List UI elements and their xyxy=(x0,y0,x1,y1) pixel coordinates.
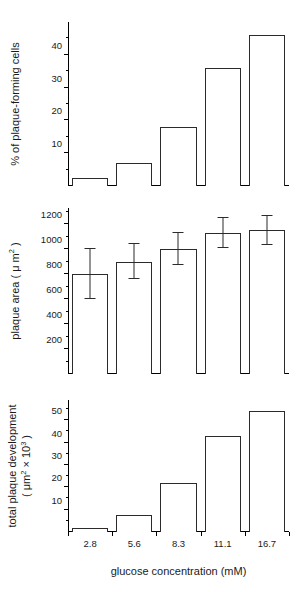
panel-percent-plaque-forming-cells: % of plaque-forming cells 10203040 xyxy=(0,14,305,194)
y-tick-label: 600 xyxy=(46,285,62,295)
y-tick-label: 1200 xyxy=(41,210,62,220)
ylabel-middle-wrap: plaque area ( μ m2 ) xyxy=(16,208,17,374)
bar-slot xyxy=(68,208,112,374)
bar-slot xyxy=(112,208,156,374)
bar-16-7-mM xyxy=(249,411,285,532)
bar-11-1-mM xyxy=(205,68,241,186)
panel-plaque-area: plaque area ( μ m2 ) 2004006008001000120… xyxy=(0,200,305,382)
ylabel-total-line2: ( μm2 × 103 ) xyxy=(20,405,34,528)
error-bar-cap-upper xyxy=(217,217,228,218)
y-tick-label: 20 xyxy=(51,107,62,117)
bar-8-3-mM xyxy=(160,249,196,374)
bar-2-8-mM xyxy=(72,528,108,532)
error-bar-cap-upper xyxy=(129,243,140,244)
ylabel-total-mid: × 10 xyxy=(20,446,32,471)
x-tick xyxy=(289,532,290,536)
x-tick xyxy=(156,532,157,536)
bar-group-middle xyxy=(68,208,289,374)
x-tick-label-5-6: 5.6 xyxy=(128,539,141,549)
error-bar-line xyxy=(90,249,91,299)
ylabel-total-post: ) xyxy=(20,435,32,442)
x-tick xyxy=(245,532,246,536)
bar-11-1-mM xyxy=(205,436,241,532)
y-tick-label: 30 xyxy=(51,451,62,461)
ylabel-plaque-area-post: ) xyxy=(9,242,21,249)
ylabel-plaque-area-pre: plaque area ( μ m xyxy=(9,253,21,339)
bar-slot xyxy=(156,22,200,186)
bar-slot xyxy=(201,208,245,374)
bar-slot xyxy=(156,208,200,374)
bar-slot xyxy=(201,22,245,186)
error-bar-line xyxy=(178,233,179,265)
bar-16-7-mM xyxy=(249,230,285,374)
error-bar-cap-lower xyxy=(129,278,140,279)
bar-slot xyxy=(245,22,289,186)
ylabel-plaque-area-exponent: 2 xyxy=(7,249,16,253)
plot-area-top: 10203040 xyxy=(68,22,289,186)
bar-slot xyxy=(245,400,289,532)
error-bar-cap-lower xyxy=(261,244,272,245)
error-bar-cap-upper xyxy=(261,215,272,216)
y-tick-label: 20 xyxy=(51,474,62,484)
ylabel-percent-plaque-forming-cells: % of plaque-forming cells xyxy=(9,42,23,166)
bar-11-1-mM xyxy=(205,233,241,374)
bar-8-3-mM xyxy=(160,483,196,532)
bar-slot xyxy=(245,208,289,374)
y-tick-label: 40 xyxy=(51,429,62,439)
bar-5-6-mM xyxy=(116,163,152,186)
panel-total-plaque-development: total plaque development ( μm2 × 103 ) 1… xyxy=(0,392,305,540)
error-bar-line xyxy=(134,244,135,279)
y-tick-label: 30 xyxy=(51,74,62,84)
y-tick-label: 800 xyxy=(46,260,62,270)
x-tick-label-8-3: 8.3 xyxy=(172,539,185,549)
error-bar-cap-lower xyxy=(217,247,228,248)
error-bar-cap-lower xyxy=(173,264,184,265)
bar-slot xyxy=(156,400,200,532)
xaxis-title: glucose concentration (mM) xyxy=(68,566,289,577)
ylabel-total-exponent-scale: 3 xyxy=(18,442,27,446)
ylabel-total-exponent-area: 2 xyxy=(18,471,27,475)
x-tick xyxy=(201,532,202,536)
ylabel-plaque-area: plaque area ( μ m2 ) xyxy=(9,242,23,339)
ylabel-top-wrap: % of plaque-forming cells xyxy=(16,22,17,186)
ylabel-total-plaque-development: total plaque development ( μm2 × 103 ) xyxy=(6,405,34,528)
error-bar-cap-upper xyxy=(85,248,96,249)
error-bar-cap-lower xyxy=(85,298,96,299)
y-tick-label: 40 xyxy=(51,41,62,51)
plot-area-middle: 20040060080010001200 xyxy=(68,208,289,374)
bar-group-bottom xyxy=(68,400,289,532)
y-tick-label: 10 xyxy=(51,496,62,506)
bar-slot xyxy=(112,400,156,532)
x-tick-label-16-7: 16.7 xyxy=(258,539,277,549)
y-tick-label: 200 xyxy=(46,335,62,345)
plot-area-bottom: 1020304050 2.85.68.311.116.7 xyxy=(68,400,289,532)
ylabel-bottom-wrap: total plaque development ( μm2 × 103 ) xyxy=(20,400,21,532)
ylabel-total-pre: ( μm xyxy=(20,475,32,497)
error-bar-line xyxy=(266,216,267,245)
bar-group-top xyxy=(68,22,289,186)
bar-slot xyxy=(68,22,112,186)
y-tick-label: 10 xyxy=(51,139,62,149)
bar-5-6-mM xyxy=(116,515,152,532)
y-tick-label: 50 xyxy=(51,406,62,416)
y-tick-label: 400 xyxy=(46,310,62,320)
ylabel-total-line1: total plaque development xyxy=(6,405,20,528)
error-bar-cap-upper xyxy=(173,232,184,233)
x-tick-label-11-1: 11.1 xyxy=(214,539,232,549)
error-bar-line xyxy=(222,218,223,248)
x-tick xyxy=(112,532,113,536)
bar-slot xyxy=(112,22,156,186)
bar-16-7-mM xyxy=(249,35,285,186)
bar-slot xyxy=(201,400,245,532)
bar-2-8-mM xyxy=(72,178,108,186)
y-tick-label: 1000 xyxy=(41,235,62,245)
figure-plaque-vs-glucose: % of plaque-forming cells 10203040 plaqu… xyxy=(0,0,305,592)
bar-8-3-mM xyxy=(160,127,196,186)
x-tick xyxy=(68,532,69,536)
bar-slot xyxy=(68,400,112,532)
x-tick-label-2-8: 2.8 xyxy=(83,539,96,549)
